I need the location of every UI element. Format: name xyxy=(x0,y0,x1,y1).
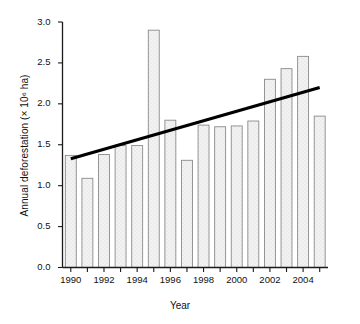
bar xyxy=(298,56,309,267)
bar xyxy=(231,126,242,268)
bar xyxy=(82,178,93,267)
deforestation-bar-chart: Annual deforestation (× 10⁶ ha) Year 0.0… xyxy=(0,0,360,324)
bar xyxy=(248,121,259,267)
bar xyxy=(148,30,159,267)
bar xyxy=(314,116,325,267)
bar xyxy=(181,160,192,267)
bar xyxy=(165,120,176,267)
bar xyxy=(215,127,226,268)
bar xyxy=(115,146,126,268)
plot-area xyxy=(0,0,360,324)
bar xyxy=(264,79,275,267)
bar xyxy=(132,146,143,268)
bar xyxy=(65,155,76,267)
bar xyxy=(99,155,110,268)
bar xyxy=(198,125,209,267)
